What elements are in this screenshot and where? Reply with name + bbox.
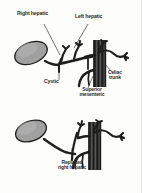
anatomy-figure: Right hepatic Left hepatic Cystic Celiac…	[0, 0, 142, 193]
gallbladder-shape-variant	[13, 116, 50, 146]
superior-mesenteric-artery-shape	[79, 70, 94, 86]
sma-branch-shape	[88, 72, 89, 85]
gallbladder-neck	[45, 61, 59, 65]
left-hepatic-artery-shape	[74, 41, 82, 59]
common-hepatic-artery-shape	[59, 56, 98, 64]
replaced-right-hepatic-artery-shape	[72, 133, 77, 160]
label-replaced-right-hepatic: Replaced right hepatic	[46, 160, 98, 170]
right-hepatic-artery-shape	[61, 46, 69, 62]
panel-normal-anatomy: Right hepatic Left hepatic Cystic Celiac…	[0, 0, 142, 104]
label-right-hepatic: Right hepatic	[17, 11, 48, 16]
label-celiac-trunk: Celiac trunk	[108, 70, 122, 80]
label-cystic: Cystic	[44, 79, 59, 84]
label-left-hepatic: Left hepatic	[75, 14, 102, 19]
cystic-duct-variant-shape	[44, 139, 75, 154]
gallbladder-shape	[11, 37, 50, 69]
label-superior-mesenteric: Superior mesenteric	[69, 87, 115, 97]
replaced-right-hepatic-drawing	[0, 104, 142, 193]
panel-replaced-right-hepatic: Replaced right hepatic	[0, 104, 142, 193]
